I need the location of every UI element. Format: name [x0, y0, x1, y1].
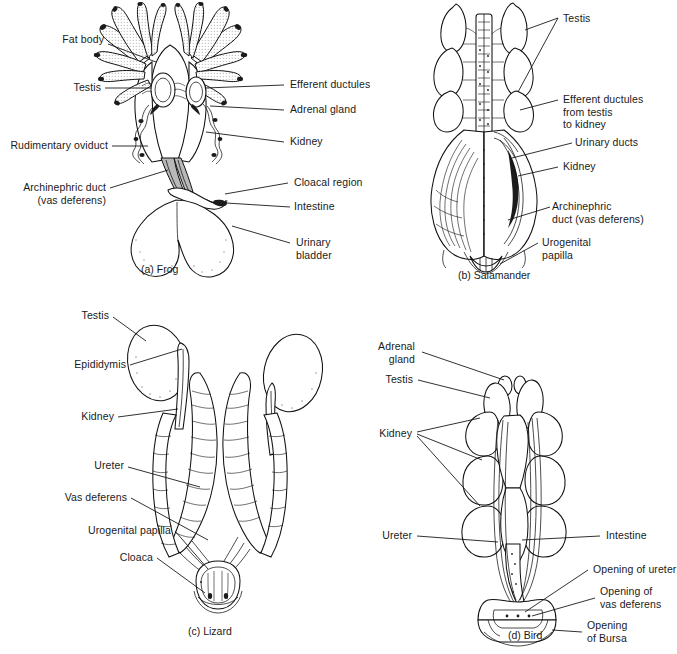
leader-testis-d — [418, 380, 490, 398]
label-archinephric-duct-frog: Archinephric duct (vas deferens) — [0, 181, 106, 206]
panel-bird: Adrenal gland Testis Kidney Ureter Intes… — [360, 330, 677, 654]
leader-adrenal-gland-d — [422, 352, 504, 380]
label-urogenital-papilla-salamander: Urogenital papilla — [542, 236, 591, 261]
label-adrenal-gland-bird: Adrenal gland — [360, 340, 415, 365]
leader-testis-b1 — [525, 18, 558, 30]
label-opening-of-ureter: Opening of ureter — [593, 563, 676, 576]
label-archinephric-duct-salamander: Archinephric duct (vas deferens) — [552, 200, 644, 225]
label-intestine-frog: Intestine — [294, 200, 335, 213]
label-cloacal-region: Cloacal region — [294, 176, 363, 189]
label-efferent-ductules-salamander: Efferent ductules from testis to kidney — [563, 93, 643, 131]
caption-salamander: (b) Salamander — [458, 269, 530, 282]
leader-adrenal-gland — [210, 106, 284, 110]
label-intestine-bird: Intestine — [606, 529, 647, 542]
label-epididymis: Epididymis — [0, 358, 126, 371]
label-testis-frog: Testis — [0, 81, 101, 94]
label-rudimentary-oviduct: Rudimentary oviduct — [0, 139, 108, 152]
figure-canvas: Fat body Testis Rudimentary oviduct Arch… — [0, 0, 677, 654]
label-kidney-bird: Kidney — [360, 427, 412, 440]
leader-cloacal-region — [225, 183, 288, 194]
caption-frog: (a) Frog — [141, 263, 178, 276]
panel-salamander: Testis Efferent ductules from testis to … — [400, 0, 677, 292]
label-opening-of-vas-deferens: Opening of vas deferens — [600, 585, 661, 610]
label-testis-bird: Testis — [360, 373, 413, 386]
label-opening-of-bursa: Opening of Bursa — [587, 619, 627, 644]
label-adrenal-gland-frog: Adrenal gland — [290, 103, 356, 116]
panel-frog: Fat body Testis Rudimentary oviduct Arch… — [0, 0, 340, 292]
label-kidney-salamander: Kidney — [563, 160, 596, 173]
panel-lizard: Testis Epididymis Kidney Ureter Vas defe… — [0, 295, 340, 654]
caption-bird: (d) Bird — [508, 629, 542, 642]
label-testis-lizard: Testis — [0, 309, 109, 322]
lizard-drawing — [0, 295, 340, 654]
leader-urinary-bladder — [232, 226, 290, 243]
label-ureter-lizard: Ureter — [0, 459, 124, 472]
leader-efferent-ductules — [205, 85, 284, 88]
label-ureter-bird: Ureter — [360, 529, 412, 542]
leader-opening-of-bursa — [552, 630, 582, 632]
leader-archinephric-duct — [110, 170, 168, 188]
label-efferent-ductules-frog: Efferent ductules — [290, 78, 370, 91]
label-fat-body: Fat body — [0, 33, 104, 46]
caption-lizard: (c) Lizard — [188, 625, 232, 638]
leader-kidney — [206, 132, 284, 142]
label-urinary-ducts: Urinary ducts — [575, 136, 638, 149]
leader-intestine — [226, 203, 290, 207]
label-cloaca-lizard: Cloaca — [0, 551, 153, 564]
label-urogenital-papilla-lizard: Urogenital papilla — [0, 524, 171, 537]
label-testis-salamander: Testis — [563, 12, 590, 25]
label-kidney-frog: Kidney — [290, 135, 323, 148]
label-vas-deferens-lizard: Vas deferens — [0, 491, 127, 504]
label-urinary-bladder: Urinary bladder — [296, 236, 332, 261]
label-kidney-lizard: Kidney — [0, 410, 114, 423]
